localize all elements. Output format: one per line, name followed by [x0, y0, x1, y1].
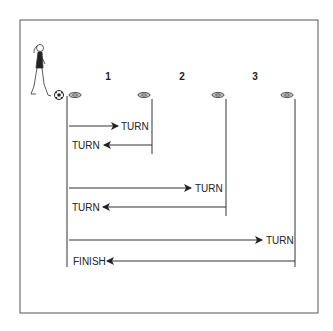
leg-3-label: TURN — [195, 183, 223, 194]
player-figure-icon — [31, 45, 51, 97]
cone-icon — [69, 92, 293, 97]
leg-2-label: TURN — [72, 140, 100, 151]
drill-diagram: 1 2 3 TURN TURN TURN TURN TURN FINISH — [0, 0, 333, 331]
leg-4-label: TURN — [72, 202, 100, 213]
station-label-3: 3 — [252, 71, 258, 82]
leg-1-label: TURN — [121, 121, 149, 132]
station-label-1: 1 — [105, 71, 111, 82]
station-label-2: 2 — [179, 71, 185, 82]
diagram-frame — [20, 20, 318, 313]
soccer-ball-icon — [55, 91, 64, 100]
leg-6-label: FINISH — [73, 256, 106, 267]
leg-5-label: TURN — [266, 235, 294, 246]
